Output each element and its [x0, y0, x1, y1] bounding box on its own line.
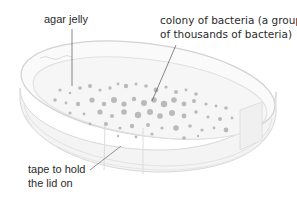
tape-label-line1: tape to hold — [28, 162, 86, 176]
colony-label-line2: of thousands of bacteria) — [160, 27, 297, 41]
colony-label: colony of bacteria (a group of thousands… — [160, 13, 297, 41]
agar-jelly-label: agar jelly — [44, 12, 88, 26]
tape-label-line2: the lid on — [28, 176, 86, 190]
petri-dish-diagram: agar jelly colony of bacteria (a group o… — [0, 0, 297, 208]
tape-label: tape to hold the lid on — [28, 162, 86, 190]
colony-label-line1: colony of bacteria (a group — [160, 13, 297, 27]
agar-jelly-label-line1: agar jelly — [44, 12, 88, 26]
